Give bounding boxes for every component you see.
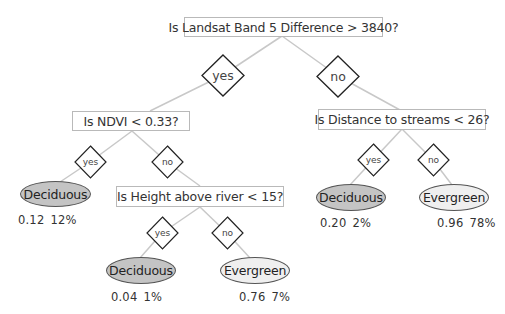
height-yes-label: yes bbox=[146, 216, 179, 250]
ndvi-yes-label: yes bbox=[74, 145, 107, 179]
leaf-pct: 12% bbox=[50, 213, 76, 227]
leaf-distance-no-stats: 0.9678% bbox=[437, 216, 496, 230]
leaf-label: Deciduous bbox=[319, 190, 383, 205]
root-yes-diamond: yes bbox=[201, 54, 245, 97]
leaf-prob: 0.04 bbox=[111, 290, 137, 304]
leaf-ndvi-yes: Deciduous bbox=[20, 181, 91, 207]
leaf-label: Deciduous bbox=[24, 187, 88, 202]
leaf-height-yes: Deciduous bbox=[106, 257, 176, 284]
root-question-box: Is Landsat Band 5 Difference > 3840? bbox=[184, 17, 383, 37]
ndvi-no-diamond: no bbox=[151, 145, 184, 179]
distance-question-box: Is Distance to streams < 26? bbox=[318, 109, 486, 130]
distance-yes-diamond: yes bbox=[357, 143, 390, 177]
leaf-label: Evergreen bbox=[224, 263, 286, 278]
leaf-prob: 0.20 bbox=[320, 216, 346, 230]
leaf-label: Evergreen bbox=[423, 190, 485, 205]
leaf-label: Deciduous bbox=[109, 263, 173, 278]
leaf-distance-yes-stats: 0.202% bbox=[320, 216, 371, 230]
root-yes-label: yes bbox=[201, 54, 245, 97]
leaf-height-no: Evergreen bbox=[220, 257, 290, 284]
leaf-pct: 7% bbox=[271, 290, 290, 304]
leaf-pct: 2% bbox=[352, 216, 371, 230]
leaf-prob: 0.76 bbox=[239, 290, 265, 304]
ndvi-question-text: Is NDVI < 0.33? bbox=[83, 114, 178, 129]
ndvi-no-label: no bbox=[151, 145, 184, 179]
ndvi-yes-diamond: yes bbox=[74, 145, 107, 179]
leaf-prob: 0.12 bbox=[18, 213, 44, 227]
height-no-diamond: no bbox=[211, 216, 244, 250]
leaf-ndvi-yes-stats: 0.1212% bbox=[18, 213, 77, 227]
distance-no-diamond: no bbox=[417, 143, 450, 177]
leaf-height-yes-stats: 0.041% bbox=[111, 290, 162, 304]
ndvi-question-box: Is NDVI < 0.33? bbox=[72, 111, 190, 131]
height-no-label: no bbox=[211, 216, 244, 250]
height-question-box: Is Height above river < 15? bbox=[116, 186, 284, 207]
distance-no-label: no bbox=[417, 143, 450, 177]
height-question-text: Is Height above river < 15? bbox=[117, 189, 283, 204]
leaf-distance-yes: Deciduous bbox=[316, 184, 386, 211]
leaf-pct: 1% bbox=[143, 290, 162, 304]
height-yes-diamond: yes bbox=[146, 216, 179, 250]
root-no-diamond: no bbox=[316, 55, 360, 98]
leaf-pct: 78% bbox=[469, 216, 495, 230]
leaf-distance-no: Evergreen bbox=[419, 184, 489, 211]
leaf-prob: 0.96 bbox=[437, 216, 463, 230]
distance-question-text: Is Distance to streams < 26? bbox=[315, 112, 490, 127]
leaf-height-no-stats: 0.767% bbox=[239, 290, 290, 304]
distance-yes-label: yes bbox=[357, 143, 390, 177]
root-question-text: Is Landsat Band 5 Difference > 3840? bbox=[169, 20, 399, 35]
root-no-label: no bbox=[316, 55, 360, 98]
